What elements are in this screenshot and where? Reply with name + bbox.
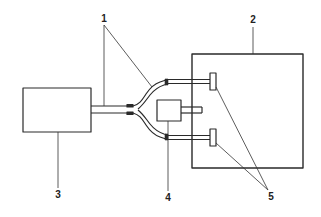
label-3: 3 <box>55 190 61 200</box>
component-3-box <box>23 88 91 132</box>
leader-1 <box>104 25 152 106</box>
component-5-connector-lower <box>210 129 216 146</box>
diagram-canvas: 1 2 3 4 5 <box>0 0 321 217</box>
component-4-box <box>157 100 181 121</box>
leader-5 <box>216 87 268 190</box>
label-2: 2 <box>250 15 256 25</box>
component-2-box <box>192 54 303 168</box>
label-4: 4 <box>165 193 171 203</box>
label-1: 1 <box>101 14 107 24</box>
label-5: 5 <box>268 192 274 202</box>
schematic-drawing <box>0 0 321 217</box>
component-5-connector-upper <box>210 73 216 90</box>
